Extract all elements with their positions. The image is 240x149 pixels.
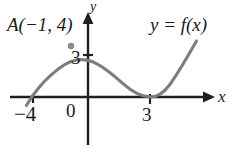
function-graph-figure: A(−1, 4) y = f(x) y x 3 0 −4 3 bbox=[0, 0, 240, 149]
function-label: y = f(x) bbox=[150, 15, 207, 34]
y-axis bbox=[83, 12, 94, 145]
y-tick-label-3: 3 bbox=[71, 48, 81, 67]
x-tick-label-3: 3 bbox=[142, 105, 152, 124]
y-axis-label: y bbox=[90, 0, 96, 14]
point-a-label: A(−1, 4) bbox=[7, 15, 73, 34]
x-axis-label: x bbox=[218, 88, 226, 105]
x-tick-label-neg4: −4 bbox=[14, 104, 36, 125]
origin-label: 0 bbox=[66, 101, 76, 120]
x-axis bbox=[10, 92, 215, 103]
